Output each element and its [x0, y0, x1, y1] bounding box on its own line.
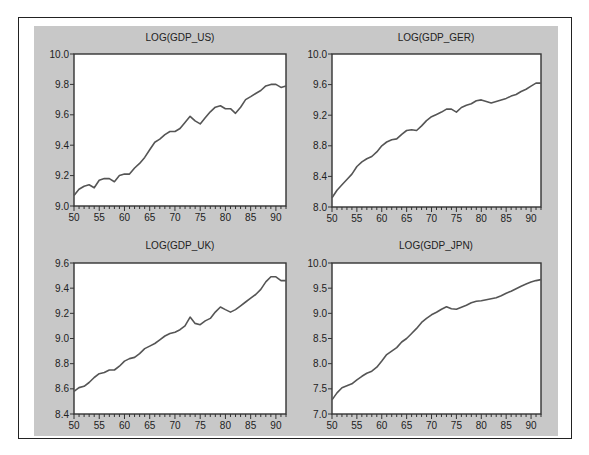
chart-jpn: LOG(GDP_JPN) 7.07.58.08.59.09.510.050556…: [308, 240, 541, 431]
y-tick-label: 10.0: [50, 49, 70, 60]
chart-title-us: LOG(GDP_US): [146, 32, 215, 43]
x-tick-label: 90: [270, 420, 282, 431]
x-tick-label: 70: [169, 212, 181, 223]
y-tick-label: 9.8: [55, 79, 69, 90]
x-tick-label: 75: [451, 420, 463, 431]
x-tick-label: 55: [351, 420, 363, 431]
x-tick-label: 50: [68, 212, 80, 223]
x-tick-label: 80: [220, 212, 232, 223]
y-tick-label: 8.0: [313, 202, 327, 213]
plot-area-jpn: [332, 263, 541, 414]
charts-grid: LOG(GDP_US) 9.09.29.49.69.810.0505560657…: [0, 0, 589, 455]
chart-us: LOG(GDP_US) 9.09.29.49.69.810.0505560657…: [50, 32, 286, 223]
x-tick-label: 60: [376, 420, 388, 431]
x-tick-label: 60: [119, 420, 131, 431]
chart-title-ger: LOG(GDP_GER): [398, 32, 475, 43]
y-tick-label: 8.4: [55, 409, 69, 420]
y-tick-label: 9.2: [313, 110, 327, 121]
chart-title-jpn: LOG(GDP_JPN): [399, 240, 473, 251]
y-tick-label: 8.6: [55, 383, 69, 394]
x-tick-label: 60: [376, 213, 388, 224]
y-tick-label: 8.5: [313, 333, 327, 344]
chart-uk: LOG(GDP_UK) 8.48.68.89.09.29.49.65055606…: [55, 240, 286, 431]
x-tick-label: 90: [525, 420, 537, 431]
y-tick-label: 8.8: [313, 140, 327, 151]
plot-area-us: [74, 54, 286, 206]
x-tick-label: 85: [501, 213, 513, 224]
y-tick-label: 10.0: [308, 49, 328, 60]
x-tick-label: 90: [270, 212, 282, 223]
y-tick-label: 9.6: [55, 258, 69, 269]
x-tick-label: 70: [169, 420, 181, 431]
x-tick-label: 80: [476, 213, 488, 224]
y-tick-label: 9.5: [313, 283, 327, 294]
x-tick-label: 85: [245, 212, 257, 223]
x-tick-label: 85: [501, 420, 513, 431]
x-tick-label: 65: [144, 420, 156, 431]
y-tick-label: 9.0: [55, 333, 69, 344]
chart-ger: LOG(GDP_GER) 8.08.48.89.29.610.050556065…: [308, 32, 541, 224]
y-tick-label: 8.0: [313, 358, 327, 369]
x-tick-label: 50: [68, 420, 80, 431]
x-tick-label: 75: [451, 213, 463, 224]
x-tick-label: 85: [245, 420, 257, 431]
x-tick-label: 60: [119, 212, 131, 223]
x-tick-label: 65: [401, 213, 413, 224]
x-tick-label: 90: [525, 213, 537, 224]
x-tick-label: 50: [326, 213, 338, 224]
y-tick-label: 9.0: [313, 308, 327, 319]
y-tick-label: 10.0: [308, 258, 328, 269]
y-tick-label: 9.0: [55, 201, 69, 212]
x-tick-label: 65: [401, 420, 413, 431]
y-tick-label: 8.4: [313, 171, 327, 182]
x-tick-label: 75: [195, 212, 207, 223]
y-tick-label: 9.4: [55, 140, 69, 151]
chart-title-uk: LOG(GDP_UK): [146, 240, 215, 251]
x-tick-label: 75: [195, 420, 207, 431]
x-tick-label: 70: [426, 213, 438, 224]
plot-area-ger: [332, 54, 541, 207]
x-tick-label: 55: [94, 212, 106, 223]
x-tick-label: 50: [326, 420, 338, 431]
x-tick-label: 55: [94, 420, 106, 431]
y-tick-label: 9.2: [55, 170, 69, 181]
y-tick-label: 9.6: [313, 79, 327, 90]
y-tick-label: 9.6: [55, 109, 69, 120]
y-tick-label: 9.2: [55, 308, 69, 319]
x-tick-label: 65: [144, 212, 156, 223]
y-tick-label: 7.0: [313, 409, 327, 420]
x-tick-label: 70: [426, 420, 438, 431]
x-tick-label: 55: [351, 213, 363, 224]
y-tick-label: 9.4: [55, 283, 69, 294]
x-tick-label: 80: [220, 420, 232, 431]
y-tick-label: 7.5: [313, 383, 327, 394]
y-tick-label: 8.8: [55, 358, 69, 369]
x-tick-label: 80: [476, 420, 488, 431]
plot-area-uk: [74, 263, 286, 414]
